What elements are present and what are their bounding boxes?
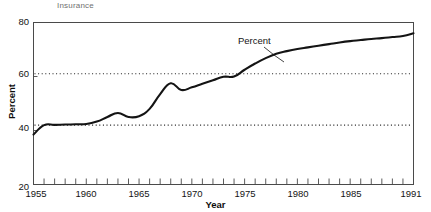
- series-line-percent: [34, 33, 414, 134]
- figure-container: Insurance 20 40 60 80 1955 1960 1965 197…: [0, 0, 431, 212]
- reference-lines-layer: [35, 74, 413, 125]
- chart-canvas: [0, 0, 431, 212]
- axis-ticks-layer: [34, 23, 414, 185]
